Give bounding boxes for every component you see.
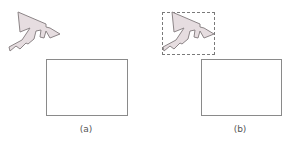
panel-label-a: (a) [71,124,101,134]
target-rectangle-b [201,59,282,116]
panel-b: (b) [144,0,288,143]
panel-label-b: (b) [225,124,255,134]
panel-a: (a) [0,0,144,143]
irregular-polygon-shape [160,10,218,56]
target-rectangle-a [46,59,128,116]
irregular-polygon-shape [6,10,64,56]
